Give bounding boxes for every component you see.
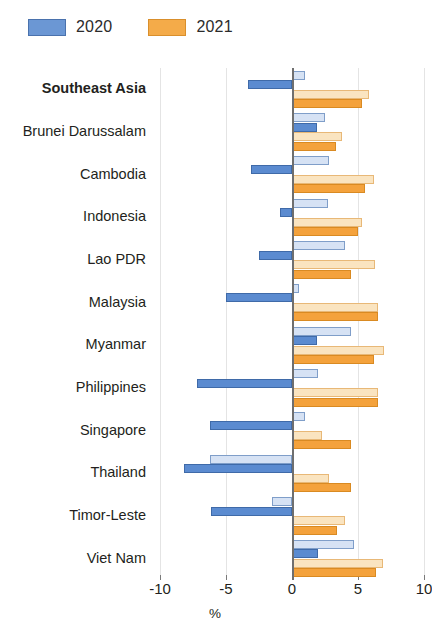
- legend-item-2021[interactable]: 2021: [148, 18, 232, 36]
- x-axis: -10-50510: [160, 580, 424, 604]
- bar-2021-light[interactable]: [292, 559, 383, 568]
- bar-2020-light[interactable]: [292, 412, 305, 421]
- category-label: Viet Nam: [87, 550, 146, 567]
- bar-2021-solid[interactable]: [292, 99, 362, 108]
- category-label: Brunei Darussalam: [23, 123, 146, 140]
- category-label: Southeast Asia: [42, 80, 146, 97]
- category-label: Timor-Leste: [69, 507, 146, 524]
- bar-2021-light[interactable]: [292, 90, 369, 99]
- x-axis-tick-label: 0: [288, 580, 296, 597]
- x-axis-tick-label: 10: [416, 580, 432, 597]
- zero-axis-line: [292, 68, 294, 580]
- bar-2020-light[interactable]: [210, 455, 292, 464]
- legend-label-2021: 2021: [196, 18, 232, 36]
- category-label: Lao PDR: [87, 251, 146, 268]
- bar-2021-solid[interactable]: [292, 526, 337, 535]
- bar-2021-solid[interactable]: [292, 227, 358, 236]
- bar-2020-solid[interactable]: [280, 208, 292, 217]
- bar-2021-light[interactable]: [292, 431, 322, 440]
- category-label: Malaysia: [89, 294, 146, 311]
- bar-2021-solid[interactable]: [292, 483, 351, 492]
- bar-2020-light[interactable]: [292, 369, 318, 378]
- bar-2021-solid[interactable]: [292, 568, 376, 577]
- bar-2021-light[interactable]: [292, 218, 362, 227]
- bar-2020-light[interactable]: [292, 71, 305, 80]
- category-label: Philippines: [76, 379, 146, 396]
- bar-2020-solid[interactable]: [259, 251, 292, 260]
- bar-2021-solid[interactable]: [292, 440, 351, 449]
- bar-2020-light[interactable]: [292, 241, 345, 250]
- category-label: Singapore: [80, 422, 146, 439]
- x-axis-title: %: [0, 606, 426, 621]
- bar-2021-light[interactable]: [292, 175, 374, 184]
- legend-swatch-2020-icon: [28, 19, 66, 36]
- bar-2021-light[interactable]: [292, 388, 378, 397]
- bar-2021-solid[interactable]: [292, 312, 378, 321]
- bar-2021-light[interactable]: [292, 303, 378, 312]
- category-label: Indonesia: [83, 208, 146, 225]
- bar-2021-solid[interactable]: [292, 142, 336, 151]
- bar-2020-solid[interactable]: [197, 379, 292, 388]
- chart-legend: 2020 2021: [28, 14, 233, 40]
- category-axis-labels: Southeast AsiaBrunei DarussalamCambodiaI…: [0, 68, 154, 580]
- x-axis-tick-label: -5: [219, 580, 232, 597]
- bar-2021-light[interactable]: [292, 474, 329, 483]
- category-label: Cambodia: [80, 166, 146, 183]
- bar-2020-solid[interactable]: [292, 123, 317, 132]
- bar-2021-solid[interactable]: [292, 355, 374, 364]
- bar-2020-solid[interactable]: [292, 336, 317, 345]
- legend-item-2020[interactable]: 2020: [28, 18, 112, 36]
- bar-2020-light[interactable]: [292, 156, 329, 165]
- plot-area: [160, 68, 424, 580]
- bar-2021-solid[interactable]: [292, 184, 365, 193]
- bar-2021-light[interactable]: [292, 260, 375, 269]
- bar-2021-solid[interactable]: [292, 398, 378, 407]
- legend-label-2020: 2020: [76, 18, 112, 36]
- category-label: Myanmar: [86, 336, 146, 353]
- bar-2021-solid[interactable]: [292, 270, 351, 279]
- x-axis-tick-label: 5: [354, 580, 362, 597]
- bar-2020-solid[interactable]: [292, 549, 318, 558]
- category-label: Thailand: [90, 464, 146, 481]
- bar-2020-light[interactable]: [292, 113, 325, 122]
- bar-2021-light[interactable]: [292, 346, 384, 355]
- bar-2020-light[interactable]: [292, 199, 328, 208]
- gridline: [424, 68, 425, 580]
- x-axis-title-text: %: [209, 606, 221, 621]
- bar-2020-light[interactable]: [292, 540, 354, 549]
- bar-2020-light[interactable]: [292, 327, 351, 336]
- legend-swatch-2021-icon: [148, 19, 186, 36]
- bar-2021-light[interactable]: [292, 516, 345, 525]
- bar-2020-light[interactable]: [272, 497, 292, 506]
- bar-2020-solid[interactable]: [251, 165, 292, 174]
- bar-2020-solid[interactable]: [184, 464, 292, 473]
- bar-2021-light[interactable]: [292, 132, 342, 141]
- bar-2020-solid[interactable]: [211, 507, 292, 516]
- bar-2020-solid[interactable]: [210, 421, 292, 430]
- bar-2020-solid[interactable]: [248, 80, 292, 89]
- x-axis-tick-label: -10: [149, 580, 171, 597]
- bar-2020-solid[interactable]: [226, 293, 292, 302]
